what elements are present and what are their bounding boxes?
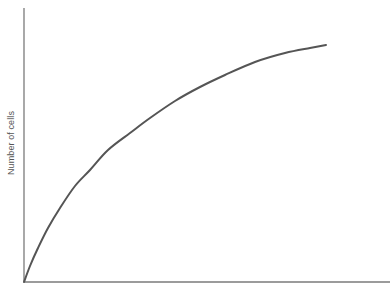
chart-container: Number of cells bbox=[0, 0, 391, 289]
growth-curve-line bbox=[24, 45, 326, 282]
chart-plot bbox=[0, 0, 391, 289]
y-axis-label: Number of cells bbox=[6, 111, 16, 175]
